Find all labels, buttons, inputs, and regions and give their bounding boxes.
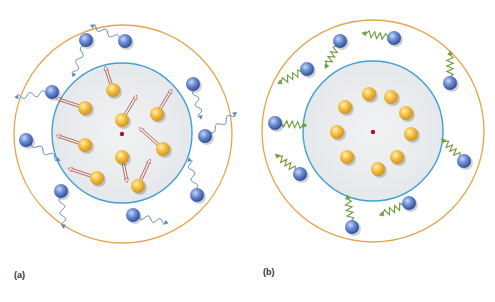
blue-particle (443, 76, 459, 92)
wave-line (192, 90, 201, 117)
spring-line (447, 55, 453, 77)
blue-particle (402, 196, 418, 212)
blue-particle (186, 77, 202, 93)
blue-particle (300, 62, 316, 78)
panel-b-label: (b) (263, 267, 275, 277)
spring-line (366, 31, 388, 39)
panel-a-thermal-motion (14, 24, 237, 243)
blue-particle (126, 208, 142, 224)
wave-line (72, 46, 84, 73)
spring-line (325, 46, 337, 65)
blue-particle (198, 129, 214, 145)
blue-particle (387, 31, 403, 47)
blue-particle (333, 34, 349, 50)
blue-particle (345, 220, 361, 236)
wave-line (31, 143, 56, 161)
wave-line (59, 197, 66, 225)
figure-canvas (0, 0, 495, 302)
blue-particle (457, 154, 473, 170)
spring-line (383, 203, 403, 214)
wave-line (139, 216, 164, 225)
blue-particle (190, 188, 206, 204)
spring-line (281, 70, 301, 82)
spring-line (281, 121, 303, 128)
center-dot (120, 132, 124, 136)
spring-line (278, 156, 295, 170)
blue-particle (54, 184, 70, 200)
spring-line (345, 199, 353, 221)
blue-particle (293, 167, 309, 183)
blue-particle (268, 116, 284, 132)
center-dot (371, 130, 375, 134)
panel-b-vibration (262, 20, 484, 242)
spring-line (444, 141, 460, 157)
panel-a-label: (a) (14, 270, 25, 280)
blue-particle (118, 34, 134, 50)
blue-particle (19, 133, 35, 149)
wave-line (188, 161, 197, 190)
